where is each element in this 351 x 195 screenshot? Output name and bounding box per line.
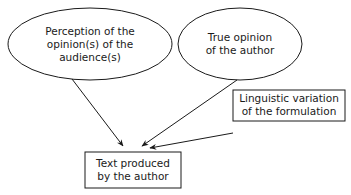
arrow-perception-to-text — [72, 79, 123, 146]
true-opinion-line-1: True opinion — [190, 31, 290, 44]
perception-line-3: audience(s) — [20, 51, 160, 64]
linguistic-line-2: of the formulation — [233, 105, 345, 118]
linguistic-line-1: Linguistic variation — [233, 92, 345, 105]
text-produced-line-2: by the author — [85, 170, 181, 183]
true-opinion-label: True opinion of the author — [190, 31, 290, 57]
arrow-linguistic-to-text — [150, 133, 233, 148]
perception-line-1: Perception of the — [20, 25, 160, 38]
arrow-true-opinion-to-text — [142, 80, 237, 146]
linguistic-label: Linguistic variation of the formulation — [233, 92, 345, 118]
perception-line-2: opinion(s) of the — [20, 38, 160, 51]
perception-label: Perception of the opinion(s) of the audi… — [20, 25, 160, 64]
text-produced-label: Text produced by the author — [85, 157, 181, 183]
text-produced-line-1: Text produced — [85, 157, 181, 170]
true-opinion-line-2: of the author — [190, 44, 290, 57]
